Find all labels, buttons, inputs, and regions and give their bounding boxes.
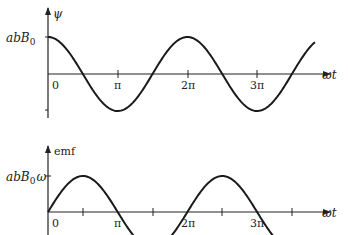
top-x-label-0: 0 xyxy=(52,79,59,92)
bottom-y-tick-label: abB0ω xyxy=(6,170,46,186)
bottom-x-label-0: 0 xyxy=(52,217,59,230)
top-y-tick-label: abB0 xyxy=(6,31,36,47)
bottom-x-axis-label: ωt xyxy=(322,206,337,220)
bottom-y-axis-label: emf xyxy=(54,145,76,158)
bottom-x-label-2pi: 2π xyxy=(181,217,195,230)
top-x-label-pi: π xyxy=(114,79,121,92)
top-x-axis-label: ωt xyxy=(322,68,337,82)
top-plot: ψ abB0 0 π 2π 3π ωt xyxy=(6,7,337,118)
chart-canvas: ψ abB0 0 π 2π 3π ωt emf abB0ω 0 π 2π 3π … xyxy=(0,0,348,235)
bottom-plot: emf abB0ω 0 π 2π 3π ωt xyxy=(6,145,337,235)
top-x-label-3pi: 3π xyxy=(250,79,264,92)
bottom-x-label-3pi: 3π xyxy=(250,217,264,230)
top-x-label-2pi: 2π xyxy=(181,79,195,92)
top-y-axis-label: ψ xyxy=(53,7,63,21)
bottom-x-label-pi: π xyxy=(114,217,121,230)
